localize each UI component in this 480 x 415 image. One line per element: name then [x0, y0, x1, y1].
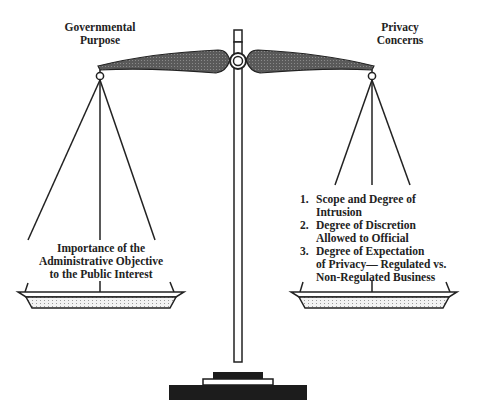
right-pan: [291, 292, 457, 308]
item-number: 1.: [300, 193, 309, 206]
pan-text-line: to the Public Interest: [16, 268, 186, 281]
title-line: Privacy: [360, 21, 440, 34]
item-line: Allowed to Official: [316, 232, 480, 245]
item-line: Intrusion: [316, 206, 480, 219]
privacy-item-1: 1. Scope and Degree of Intrusion: [300, 193, 480, 219]
title-line: Governmental: [56, 21, 144, 34]
left-pan-text: Importance of the Administrative Objecti…: [16, 242, 186, 281]
beam-left-arm: [98, 50, 230, 73]
item-line: Non-Regulated Business: [316, 271, 480, 284]
privacy-item-2: 2. Degree of Discretion Allowed to Offic…: [300, 219, 480, 245]
scale-column: [234, 30, 242, 362]
right-pan-list: 1. Scope and Degree of Intrusion 2. Degr…: [300, 193, 480, 284]
title-line: Concerns: [360, 34, 440, 47]
privacy-concerns-title: Privacy Concerns: [360, 21, 440, 47]
item-line: of Privacy— Regulated vs.: [316, 258, 480, 271]
pan-text-line: Importance of the: [16, 242, 186, 255]
item-number: 2.: [300, 219, 309, 232]
item-line: Degree of Expectation: [316, 245, 480, 258]
item-line: Scope and Degree of: [316, 193, 480, 206]
item-line: Degree of Discretion: [316, 219, 480, 232]
item-number: 3.: [300, 245, 309, 258]
beam-right-arm: [246, 50, 374, 73]
pan-text-line: Administrative Objective: [16, 255, 186, 268]
title-line: Purpose: [56, 34, 144, 47]
privacy-item-3: 3. Degree of Expectation of Privacy— Reg…: [300, 245, 480, 284]
governmental-purpose-title: Governmental Purpose: [56, 21, 144, 47]
scale-base: [169, 372, 307, 400]
left-pan: [18, 292, 184, 308]
